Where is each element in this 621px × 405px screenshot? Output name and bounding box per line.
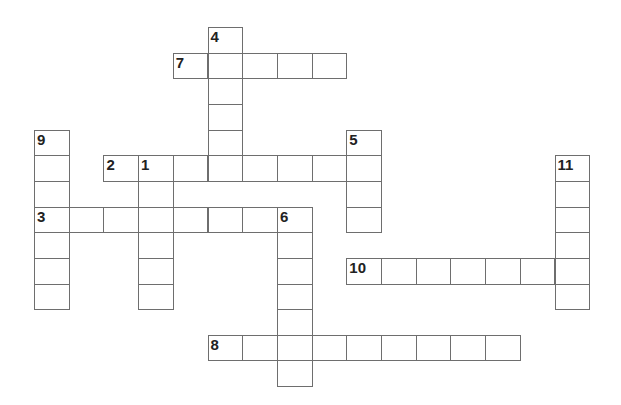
crossword-cell[interactable] [346,155,382,182]
crossword-cell[interactable]: 11 [555,155,591,182]
crossword-cell[interactable] [555,284,591,311]
crossword-cell[interactable] [242,53,278,80]
crossword-cell[interactable] [450,258,486,285]
crossword-cell[interactable] [34,232,70,259]
crossword-cell[interactable]: 2 [103,155,139,182]
clue-number: 9 [37,131,45,148]
crossword-cell[interactable] [208,78,244,105]
crossword-cell[interactable] [416,258,452,285]
crossword-cell[interactable] [277,53,313,80]
crossword-cell[interactable] [346,335,382,362]
crossword-cell[interactable]: 9 [34,130,70,157]
crossword-cell[interactable] [242,335,278,362]
crossword-cell[interactable] [103,207,139,234]
crossword-cell[interactable]: 5 [346,130,382,157]
crossword-cell[interactable] [208,53,244,80]
crossword-cell[interactable] [277,232,313,259]
crossword-cell[interactable] [555,181,591,208]
clue-number: 11 [558,156,574,173]
crossword-cell[interactable] [485,258,521,285]
crossword-cell[interactable]: 8 [208,335,244,362]
crossword-cell[interactable] [138,207,174,234]
crossword-cell[interactable] [312,53,348,80]
crossword-cell[interactable] [208,130,244,157]
crossword-cell[interactable] [138,181,174,208]
clue-number: 4 [211,28,219,45]
crossword-cell[interactable] [416,335,452,362]
crossword-cell[interactable] [346,181,382,208]
crossword-cell[interactable]: 4 [208,27,244,54]
crossword-cell[interactable] [208,207,244,234]
crossword-cell[interactable]: 6 [277,207,313,234]
clue-number: 8 [211,336,219,353]
clue-number: 5 [349,131,357,148]
clue-number: 1 [141,156,149,173]
crossword-cell[interactable]: 7 [173,53,209,80]
crossword-cell[interactable] [208,155,244,182]
crossword-cell[interactable] [34,258,70,285]
crossword-cell[interactable] [312,335,348,362]
crossword-cell[interactable] [555,207,591,234]
crossword-cell[interactable] [277,155,313,182]
clue-number: 7 [176,54,184,71]
crossword-cell[interactable] [277,335,313,362]
crossword-cell[interactable] [173,207,209,234]
crossword-cell[interactable] [520,258,556,285]
crossword-cell[interactable]: 3 [34,207,70,234]
crossword-cell[interactable] [346,207,382,234]
crossword-cell[interactable] [34,155,70,182]
crossword-cell[interactable] [381,258,417,285]
clue-number: 3 [37,208,45,225]
crossword-cell[interactable] [173,155,209,182]
crossword-cell[interactable] [277,309,313,336]
crossword-cell[interactable]: 1 [138,155,174,182]
crossword-cell[interactable] [242,155,278,182]
crossword-cell[interactable] [242,207,278,234]
crossword-cell[interactable] [555,258,591,285]
crossword-cell[interactable] [277,258,313,285]
clue-number: 10 [349,259,366,276]
crossword-cell[interactable] [138,284,174,311]
crossword-cell[interactable] [138,258,174,285]
crossword-cell[interactable] [450,335,486,362]
crossword-cell[interactable] [208,104,244,131]
clue-number: 6 [280,208,288,225]
crossword-cell[interactable] [312,155,348,182]
crossword-cell[interactable] [277,284,313,311]
crossword-cell[interactable] [485,335,521,362]
crossword-cell[interactable] [34,284,70,311]
crossword-cell[interactable] [69,207,105,234]
crossword-cell[interactable] [555,232,591,259]
clue-number: 2 [106,156,114,173]
crossword-cell[interactable] [277,360,313,387]
crossword-cell[interactable] [138,232,174,259]
crossword-cell[interactable] [381,335,417,362]
crossword-cell[interactable] [34,181,70,208]
crossword-cell[interactable]: 10 [346,258,382,285]
crossword-grid: 1236457891011 [0,0,621,405]
